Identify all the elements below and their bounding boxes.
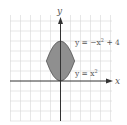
- upper-curve-label: y = −x2 + 4: [74, 37, 120, 47]
- x-axis-arrow-icon: [106, 79, 113, 84]
- lower-curve-label-exp: 2: [95, 68, 98, 74]
- lower-curve-label: y = x2: [74, 68, 98, 78]
- x-axis-label: x: [115, 76, 120, 86]
- lower-curve-label-base: y = x: [74, 69, 95, 78]
- y-axis-label: y: [56, 6, 63, 16]
- y-axis-arrow-icon: [58, 17, 63, 24]
- upper-curve-label-base: y = −x: [74, 38, 102, 47]
- graph: y x y = −x2 + 4 y = x2: [0, 0, 127, 125]
- upper-curve-label-suffix: + 4: [104, 38, 120, 47]
